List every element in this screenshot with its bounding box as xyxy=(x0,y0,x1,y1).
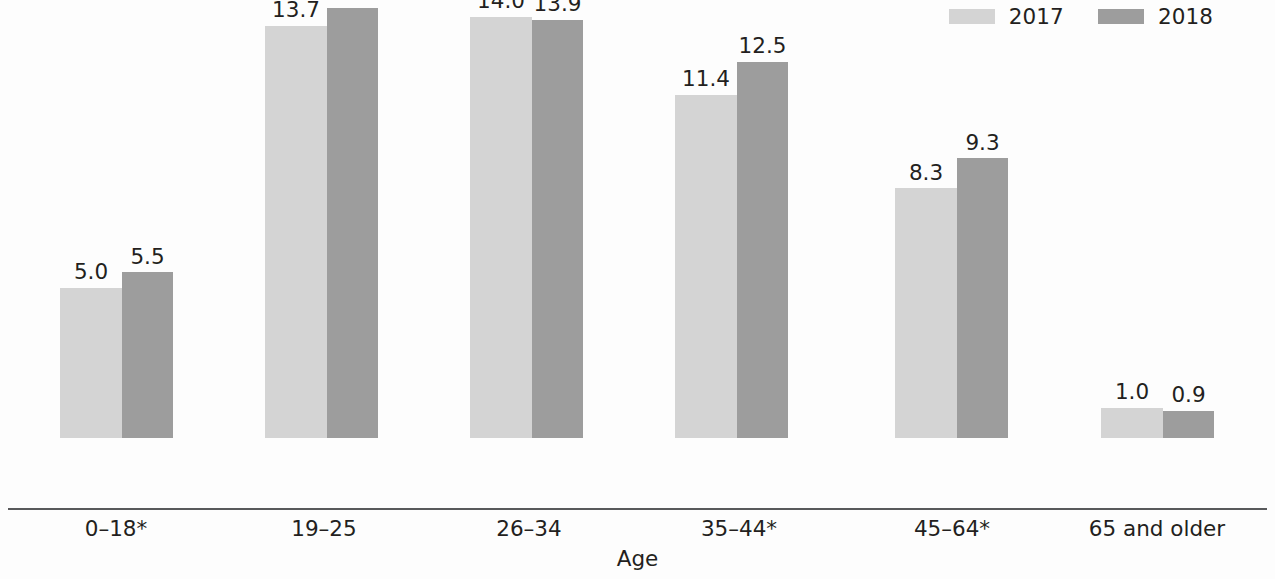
bar-2017[interactable]: 14.0 xyxy=(470,17,532,438)
bar-rect[interactable] xyxy=(122,272,173,438)
bar-pair: 11.412.5 xyxy=(675,62,788,438)
bar-value-label: 14.0 xyxy=(477,0,525,12)
bar-rect[interactable] xyxy=(675,95,737,438)
bar-2017[interactable]: 11.4 xyxy=(675,95,737,438)
bar-value-label: 13.9 xyxy=(534,0,582,15)
x-tick-label: 35–44* xyxy=(701,518,777,540)
bar-value-label: 0.9 xyxy=(1171,384,1205,406)
bar-value-label: 1.0 xyxy=(1115,381,1149,403)
bar-value-label: 14.3 xyxy=(329,0,377,3)
bar-2017[interactable]: 8.3 xyxy=(895,188,957,438)
plot-area: 5.05.513.714.314.013.911.412.58.39.31.00… xyxy=(0,0,1275,509)
bar-value-label: 9.3 xyxy=(965,132,999,154)
x-tick-label: 26–34 xyxy=(496,518,561,540)
bar-rect[interactable] xyxy=(60,288,122,439)
bar-pair: 8.39.3 xyxy=(895,158,1008,438)
bar-value-label: 11.4 xyxy=(682,68,730,90)
bar-rect[interactable] xyxy=(737,62,788,438)
x-tick-label: 0–18* xyxy=(85,518,148,540)
bar-2018[interactable]: 14.3 xyxy=(327,8,378,438)
bar-2017[interactable]: 13.7 xyxy=(265,26,327,438)
bar-2017[interactable]: 1.0 xyxy=(1101,408,1163,438)
x-axis-line xyxy=(8,508,1267,510)
bar-rect[interactable] xyxy=(1163,411,1214,438)
bar-value-label: 8.3 xyxy=(909,162,943,184)
x-tick-label: 65 and older xyxy=(1089,518,1225,540)
bar-chart: 2017 2018 5.05.513.714.314.013.911.412.5… xyxy=(0,0,1275,579)
bar-value-label: 13.7 xyxy=(272,0,320,21)
bar-value-label: 12.5 xyxy=(739,35,787,57)
bar-2018[interactable]: 13.9 xyxy=(532,20,583,438)
bar-rect[interactable] xyxy=(957,158,1008,438)
bar-rect[interactable] xyxy=(895,188,957,438)
bar-2018[interactable]: 5.5 xyxy=(122,272,173,438)
bar-rect[interactable] xyxy=(1101,408,1163,438)
bar-value-label: 5.0 xyxy=(74,261,108,283)
x-tick-label: 19–25 xyxy=(291,518,356,540)
bar-rect[interactable] xyxy=(327,8,378,438)
bar-value-label: 5.5 xyxy=(130,246,164,268)
bar-pair: 1.00.9 xyxy=(1101,408,1214,438)
x-axis-title: Age xyxy=(0,548,1275,570)
bar-rect[interactable] xyxy=(470,17,532,438)
x-tick-label: 45–64* xyxy=(914,518,990,540)
bar-pair: 13.714.3 xyxy=(265,8,378,438)
bar-2018[interactable]: 12.5 xyxy=(737,62,788,438)
bar-pair: 14.013.9 xyxy=(470,17,583,438)
bar-2017[interactable]: 5.0 xyxy=(60,288,122,439)
bar-rect[interactable] xyxy=(532,20,583,438)
bar-rect[interactable] xyxy=(265,26,327,438)
bar-2018[interactable]: 9.3 xyxy=(957,158,1008,438)
bar-2018[interactable]: 0.9 xyxy=(1163,411,1214,438)
bar-pair: 5.05.5 xyxy=(60,272,173,438)
